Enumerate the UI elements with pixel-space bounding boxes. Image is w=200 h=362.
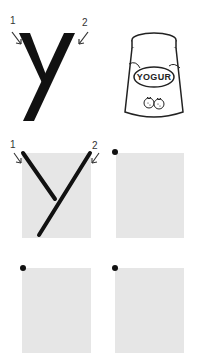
box1-stroke-number-2: 2 xyxy=(92,141,98,151)
box1-arrow-1-icon xyxy=(12,152,26,168)
start-dot xyxy=(112,265,118,271)
arrow-1-icon xyxy=(9,30,25,50)
practice-box-2[interactable] xyxy=(116,153,184,238)
practice-box-3[interactable] xyxy=(22,268,91,353)
start-dot xyxy=(112,149,118,155)
box1-stroke-number-1: 1 xyxy=(10,140,16,150)
model-letter: 1 2 xyxy=(0,0,100,125)
yogurt-label: YOGUR xyxy=(137,72,172,82)
yogurt-cup-icon: YOGUR xyxy=(122,30,186,122)
box1-arrow-2-icon xyxy=(88,152,102,168)
arrow-2-icon xyxy=(76,30,92,50)
yogurt-picture: YOGUR xyxy=(122,30,186,122)
traced-letter-y-glyph xyxy=(15,145,95,245)
stroke-number-1: 1 xyxy=(10,16,16,26)
stroke-number-2: 2 xyxy=(82,18,88,28)
practice-box-4[interactable] xyxy=(115,268,184,353)
start-dot xyxy=(20,265,26,271)
